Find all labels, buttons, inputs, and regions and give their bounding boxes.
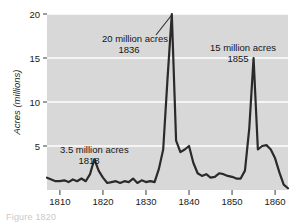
annotation-1855-line2: 1855 — [227, 53, 248, 64]
annotation-1818-line1: 3.5 million acres — [60, 144, 129, 155]
line-chart: 20 15 10 5 Acres (millions) 1810 1820 18… — [0, 0, 298, 223]
y-tick-label-10: 10 — [29, 97, 40, 108]
x-tick-label-1830: 1830 — [135, 196, 156, 207]
caption-fragment: Figure 1820 — [6, 212, 56, 223]
figure-container: 20 15 10 5 Acres (millions) 1810 1820 18… — [0, 0, 298, 223]
annotation-1836-line2: 1836 — [118, 44, 139, 55]
x-axis-ticks — [60, 190, 275, 195]
x-tick-label-1840: 1840 — [178, 196, 199, 207]
x-tick-label-1810: 1810 — [49, 196, 70, 207]
annotation-1836-line1: 20 million acres — [102, 33, 168, 44]
y-axis-title: Acres (millions) — [11, 70, 22, 136]
x-tick-label-1860: 1860 — [265, 196, 286, 207]
y-axis-ticks — [43, 14, 47, 146]
y-tick-label-15: 15 — [29, 53, 40, 64]
y-tick-label-5: 5 — [35, 141, 40, 152]
x-tick-label-1850: 1850 — [221, 196, 242, 207]
y-tick-label-20: 20 — [29, 9, 40, 20]
x-axis-tick-labels: 1810 1820 1830 1840 1850 1860 — [49, 196, 285, 207]
x-tick-label-1820: 1820 — [92, 196, 113, 207]
annotation-1855-line1: 15 million acres — [210, 42, 276, 53]
annotation-1818-line2: 1818 — [78, 155, 99, 166]
y-axis-tick-labels: 20 15 10 5 — [29, 9, 40, 152]
